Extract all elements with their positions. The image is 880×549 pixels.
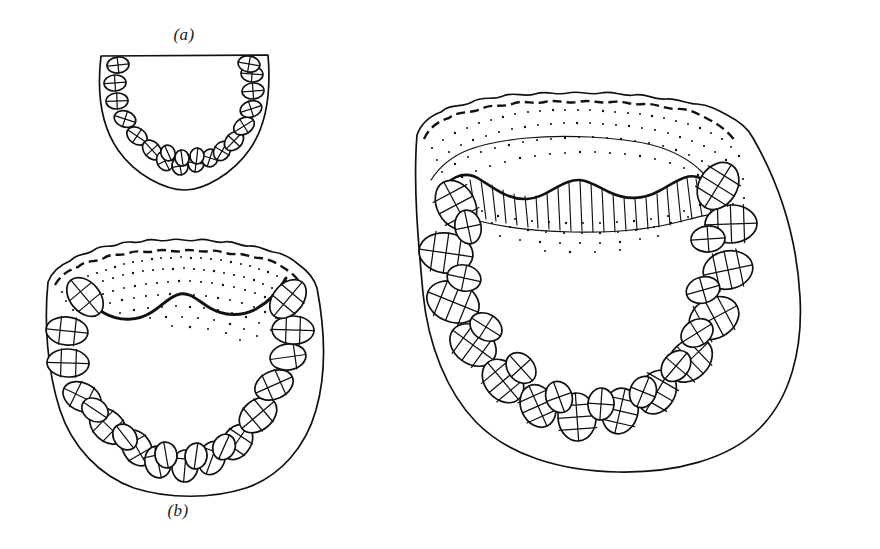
tooth: [189, 147, 205, 164]
palate-figure-svg: (a): [0, 0, 880, 549]
figure-root: (a): [0, 0, 880, 549]
tooth: [103, 74, 126, 91]
panel-b-label: (b): [167, 501, 188, 520]
tooth: [106, 93, 129, 110]
tooth: [47, 348, 90, 377]
tooth: [241, 82, 264, 99]
tooth: [272, 315, 315, 344]
panel-c: (c): [416, 92, 801, 472]
panel-a-label: (a): [173, 25, 194, 44]
